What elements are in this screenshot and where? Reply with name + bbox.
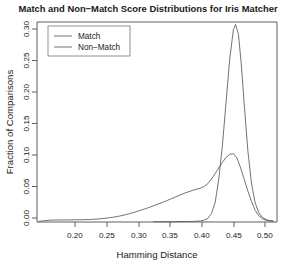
x-tick-label: 0.50 bbox=[257, 231, 273, 240]
x-tick-label: 0.25 bbox=[99, 231, 115, 240]
legend-label-non-match: Non−Match bbox=[78, 43, 121, 52]
legend-label-match: Match bbox=[78, 32, 101, 41]
chart-figure: Match and Non−Match Score Distributions … bbox=[0, 0, 293, 265]
x-tick-label: 0.20 bbox=[67, 231, 83, 240]
x-tick-label: 0.40 bbox=[194, 231, 210, 240]
y-tick-label: 0.05 bbox=[22, 178, 31, 194]
x-tick-label: 0.45 bbox=[226, 231, 242, 240]
y-tick-label: 0.30 bbox=[22, 21, 31, 37]
y-axis-ticks: 0.00 0.05 0.10 0.15 0.20 0.25 0.30 bbox=[22, 21, 37, 226]
series-group bbox=[39, 24, 273, 221]
distribution-chart-svg: Match and Non−Match Score Distributions … bbox=[0, 0, 293, 265]
y-tick-label: 0.00 bbox=[22, 210, 31, 226]
x-axis-ticks: 0.20 0.25 0.30 0.35 0.40 0.45 0.50 bbox=[67, 222, 273, 240]
series-line-match bbox=[39, 154, 273, 222]
y-axis-title: Fraction of Comparisons bbox=[4, 70, 15, 175]
chart-legend: Match Non−Match bbox=[48, 26, 130, 56]
y-tick-label: 0.10 bbox=[22, 147, 31, 163]
y-tick-label: 0.15 bbox=[22, 115, 31, 131]
series-line-non-match bbox=[153, 24, 273, 221]
y-tick-label: 0.25 bbox=[22, 52, 31, 68]
x-tick-label: 0.30 bbox=[131, 231, 147, 240]
y-tick-label: 0.20 bbox=[22, 84, 31, 100]
x-axis-title: Hamming Distance bbox=[116, 249, 197, 260]
chart-title: Match and Non−Match Score Distributions … bbox=[18, 3, 278, 14]
x-tick-label: 0.35 bbox=[162, 231, 178, 240]
